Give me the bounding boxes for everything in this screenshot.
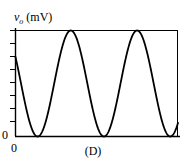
- y-axis-ticks: [10, 31, 15, 122]
- chart-plot-area: [0, 0, 186, 162]
- y-axis-zero-label: 0: [2, 129, 8, 141]
- figure-caption: (D): [0, 144, 186, 158]
- waveform-trace: [16, 31, 179, 137]
- figure-panel-d: vo (mV) 0 0 (D): [0, 0, 186, 162]
